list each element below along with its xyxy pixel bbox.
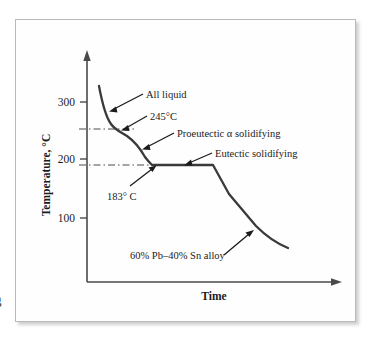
cooling-curve-series: [99, 86, 288, 248]
y-tick-label-200: 200: [58, 153, 76, 165]
arrow-head-245c: [121, 125, 130, 131]
arrow-line-proeutectic: [147, 133, 174, 147]
arrow-head-eutectic: [184, 160, 193, 166]
x-axis-title: Time: [201, 290, 226, 302]
cooling-curve-path: [99, 86, 288, 248]
y-axis-arrow-icon: [83, 50, 90, 61]
x-axis-arrow-icon: [331, 278, 342, 285]
annotation-eutectic-solidifying: Eutectic solidifying: [215, 148, 298, 159]
annotation-arrows: [109, 94, 254, 255]
y-axis-ticks: [80, 102, 87, 218]
arrow-line-eutectic: [189, 153, 212, 163]
figure-frame: 300 200 100 Temperature, °C Time: [15, 19, 356, 322]
arrow-line-alloy: [224, 234, 249, 255]
margin-caption-glyph: g: [0, 292, 8, 308]
annotation-245c: 245°C: [150, 111, 177, 122]
y-tick-label-100: 100: [58, 212, 76, 224]
annotation-alloy-composition: 60% Pb–40% Sn alloy: [130, 250, 226, 261]
y-tick-label-300: 300: [58, 96, 76, 108]
cooling-curve-chart: 300 200 100 Temperature, °C Time: [16, 20, 357, 323]
arrow-line-183c: [130, 169, 152, 186]
arrow-head-all-liquid: [109, 107, 118, 113]
arrow-line-245c: [126, 116, 147, 128]
y-axis-title: Temperature, °C: [40, 134, 53, 217]
annotation-183c: 183° C: [107, 191, 137, 202]
screenshot-page: 300 200 100 Temperature, °C Time: [0, 0, 375, 346]
annotation-all-liquid: All liquid: [146, 89, 187, 100]
arrow-line-all-liquid: [114, 94, 143, 109]
arrow-head-proeutectic: [142, 144, 151, 150]
annotation-proeutectic-alpha: Proeutectic α solidifying: [177, 128, 281, 139]
